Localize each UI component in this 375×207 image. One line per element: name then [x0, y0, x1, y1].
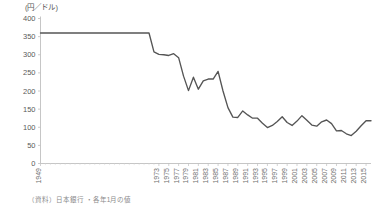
- x-axis-tick-label: 1977: [173, 168, 180, 184]
- x-axis-tick-label: 1997: [271, 168, 278, 184]
- x-axis-tick-label: 1975: [163, 168, 170, 184]
- x-axis-tick-label: 1949: [35, 168, 42, 184]
- source-note: （資料）日本銀行 ・各年1月の値: [28, 194, 131, 204]
- x-axis-tick-label: 2009: [330, 168, 337, 184]
- x-axis-tick-label: 2015: [360, 168, 367, 184]
- x-axis-tick-label: 2011: [340, 168, 347, 183]
- y-axis-tick-label: 400: [23, 14, 36, 23]
- x-axis-tick-label: 1973: [153, 168, 160, 184]
- x-axis-tick-label: 1995: [261, 168, 268, 184]
- x-axis-tick-label: 2003: [301, 168, 308, 184]
- y-axis-tick-label: 300: [23, 50, 36, 59]
- x-axis-tick-label: 2005: [311, 168, 318, 184]
- y-axis-tick-label: 50: [27, 141, 35, 150]
- y-axis-tick-label: 0: [31, 159, 35, 168]
- y-axis-tick-label: 200: [23, 87, 36, 96]
- x-axis-tick-label: 2013: [350, 168, 357, 184]
- x-axis-tick-label: 2007: [321, 168, 328, 184]
- x-axis-tick-label: 2001: [291, 168, 298, 184]
- x-axis-tick-label: 1985: [212, 168, 219, 184]
- x-axis-tick-label: 1993: [252, 168, 259, 184]
- y-axis-tick-label: 150: [23, 105, 36, 114]
- x-axis-tick-label: 1983: [202, 168, 209, 184]
- x-axis-tick-label: 1981: [192, 168, 199, 184]
- exchange-rate-chart: (円／ドル) 050100150200250300350400194919731…: [0, 0, 375, 207]
- x-axis-tick-label: 1987: [222, 168, 229, 184]
- chart-plot-area: 0501001502002503003504001949197319751977…: [0, 0, 375, 207]
- y-axis-tick-label: 100: [23, 123, 36, 132]
- x-axis-tick-label: 1989: [232, 168, 239, 184]
- data-series-line: [41, 33, 372, 136]
- y-axis-tick-label: 350: [23, 32, 36, 41]
- x-axis-tick-label: 1991: [242, 168, 249, 184]
- x-axis-tick-label: 1999: [281, 168, 288, 184]
- y-axis-tick-label: 250: [23, 68, 36, 77]
- x-axis-tick-label: 1979: [182, 168, 189, 184]
